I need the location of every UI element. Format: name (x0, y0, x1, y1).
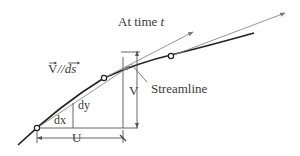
dy-label: dy (78, 99, 90, 111)
diagram-title: At time t (118, 15, 164, 28)
ds-vector-arrowhead (78, 62, 81, 65)
tangent-arrow-2 (104, 32, 193, 78)
v-symbol: V (48, 61, 57, 76)
u-component-label: U (72, 131, 81, 144)
point-2-marker (101, 75, 106, 80)
v-component-label: V (129, 84, 138, 97)
streamline-label: Streamline (151, 82, 207, 95)
point-3-marker (168, 53, 173, 58)
v-bottom-arrowhead (135, 123, 139, 128)
dx-label: dx (54, 114, 66, 126)
velocity-parallel-label: V//ds (48, 62, 76, 75)
streamline-leader (131, 64, 147, 82)
ds-symbol: ds (65, 61, 77, 76)
title-text: At time (118, 14, 157, 29)
point-1-marker (34, 125, 39, 130)
parallel-separator: // (57, 61, 64, 76)
u-left-arrowhead (37, 136, 42, 140)
title-time-variable: t (161, 14, 165, 29)
